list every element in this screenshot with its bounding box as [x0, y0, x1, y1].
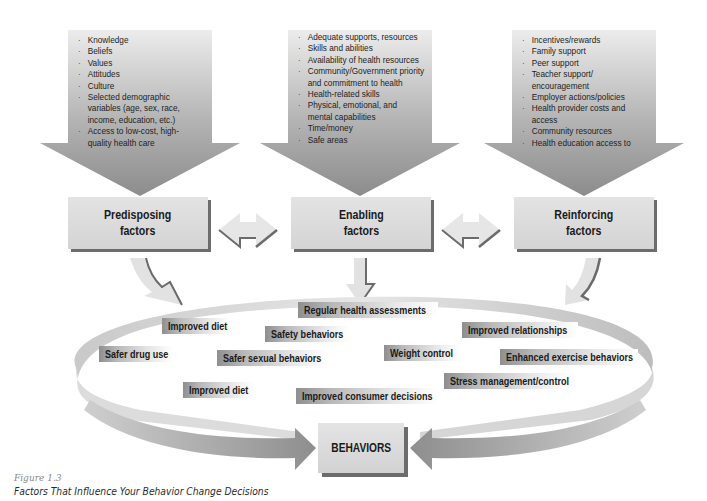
predisposing-title-line1: Predisposing — [104, 207, 171, 223]
list-item: Skills and abilities — [298, 42, 421, 53]
list-item: Health-related skills — [298, 88, 421, 99]
behavior-label: Safer sexual behaviors — [217, 350, 327, 366]
enabling-title-line1: Enabling — [339, 207, 384, 223]
predisposing-title-line2: factors — [104, 223, 171, 239]
behavior-label: Improved diet — [162, 318, 230, 334]
reinforcing-factors-box: Reinforcing factors — [514, 197, 654, 249]
list-item: Adequate supports, resources — [298, 31, 421, 42]
list-item: Teacher support/ encouragement — [522, 68, 628, 91]
figure-title: Factors That Influence Your Behavior Cha… — [14, 486, 268, 497]
behavior-label: Regular health assessments — [298, 302, 438, 318]
behavior-label: Safer drug use — [99, 346, 173, 362]
list-item: Knowledge — [78, 34, 184, 45]
enabling-title-line2: factors — [339, 223, 384, 239]
behaviors-label: BEHAVIORS — [331, 441, 391, 455]
behavior-label: Stress management/control — [444, 373, 570, 389]
double-arrow-left — [219, 213, 277, 247]
enabling-factors-list: Adequate supports, resources Skills and … — [298, 31, 438, 145]
list-item: Family support — [522, 45, 636, 56]
behavior-label: Safety behaviors — [265, 326, 349, 342]
behavior-label: Enhanced exercise behaviors — [500, 349, 638, 365]
list-item: Attitudes — [78, 68, 184, 79]
list-item: Community/Government priority and commit… — [298, 65, 431, 88]
list-item: Physical, emotional, and mental capabili… — [298, 99, 422, 122]
behavior-label: Improved consumer decisions — [296, 388, 438, 404]
behavior-label: Weight control — [384, 345, 460, 361]
enabling-factors-box: Enabling factors — [291, 197, 431, 249]
list-item: Incentives/rewards — [522, 34, 636, 45]
curved-arrow-reinforcing — [565, 258, 600, 305]
double-arrow-right — [442, 213, 500, 247]
reinforcing-factors-list: Incentives/rewards Family support Peer s… — [522, 34, 652, 148]
list-item: Health education access to — [522, 137, 636, 148]
list-item: Peer support — [522, 57, 636, 68]
reinforcing-title-line2: factors — [554, 223, 613, 239]
list-item: Access to low-cost, high-quality health … — [78, 125, 200, 148]
reinforcing-title-line1: Reinforcing — [554, 207, 613, 223]
figure-number: Figure 1.3 — [14, 473, 61, 483]
curved-arrow-predisposing — [130, 258, 182, 305]
list-item: Selected demographic variables (age, sex… — [78, 91, 200, 125]
list-item: Community resources — [522, 125, 636, 136]
list-item: Safe areas — [298, 134, 421, 145]
list-item: Time/money — [298, 122, 421, 133]
behavior-label: Improved diet — [183, 382, 253, 398]
list-item: Culture — [78, 80, 184, 91]
behavior-label: Improved relationships — [462, 322, 578, 338]
behaviors-box: BEHAVIORS — [318, 423, 404, 473]
list-item: Values — [78, 57, 184, 68]
list-item: Health provider costs and access — [522, 102, 646, 125]
predisposing-factors-list: Knowledge Beliefs Values Attitudes Cultu… — [78, 34, 198, 148]
list-item: Availability of health resources — [298, 54, 421, 65]
list-item: Employer actions/policies — [522, 91, 636, 102]
list-item: Beliefs — [78, 45, 184, 56]
predisposing-factors-box: Predisposing factors — [68, 197, 208, 249]
